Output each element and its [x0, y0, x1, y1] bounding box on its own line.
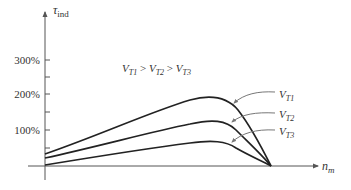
- y-axis-label: τind: [53, 3, 69, 19]
- y-tick-label-100: 100%: [14, 124, 40, 136]
- series-label-vt3: VT3: [279, 125, 294, 140]
- series-label-vt1: VT1: [279, 88, 294, 103]
- curve-vt3: [45, 141, 271, 166]
- leader-vt1: [234, 92, 275, 103]
- y-tick-label-200: 200%: [14, 88, 40, 100]
- series-label-vt2: VT2: [279, 108, 294, 123]
- relation-annotation: VT1 > VT2 > VT3: [122, 62, 191, 77]
- x-axis-label: nm: [322, 159, 335, 175]
- y-ticks: [45, 60, 50, 148]
- y-tick-label-300: 300%: [14, 54, 40, 66]
- torque-speed-chart: 300% 200% 100% τind nm VT1 > VT2 > VT3 V…: [0, 0, 351, 190]
- leader-vt2: [232, 113, 275, 122]
